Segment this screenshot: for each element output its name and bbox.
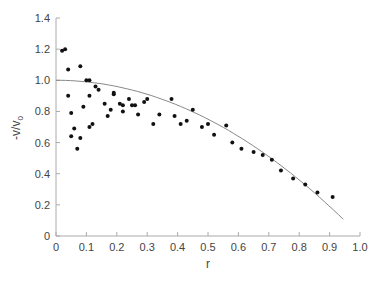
data-point: [239, 147, 243, 151]
data-point: [157, 113, 161, 117]
data-point: [303, 183, 307, 187]
x-tick-label: 0.2: [109, 241, 124, 253]
data-point: [106, 114, 110, 118]
x-tick-label: 0.7: [261, 241, 276, 253]
data-point: [109, 108, 113, 112]
axes: [56, 18, 360, 236]
x-tick-label: 0.6: [231, 241, 246, 253]
data-point: [121, 109, 125, 113]
data-point: [63, 47, 67, 51]
data-point: [291, 176, 295, 180]
data-point: [261, 153, 265, 157]
data-point: [206, 122, 210, 126]
data-point: [191, 108, 195, 112]
data-point: [151, 122, 155, 126]
data-point: [69, 134, 73, 138]
scatter-chart: 00.10.20.30.40.50.60.70.80.91.0 00.20.40…: [0, 0, 383, 281]
data-point: [331, 195, 335, 199]
data-point: [75, 147, 79, 151]
data-point: [145, 97, 149, 101]
y-tick-label: 0.4: [35, 168, 50, 180]
y-tick-label: 1.0: [35, 74, 50, 86]
x-tick-label: 0: [53, 241, 59, 253]
data-point: [133, 103, 137, 107]
data-point: [230, 141, 234, 145]
data-point: [87, 94, 91, 98]
data-point: [200, 125, 204, 129]
data-point: [142, 100, 146, 104]
data-points: [60, 47, 335, 199]
data-point: [270, 158, 274, 162]
fit-curve: [56, 80, 343, 219]
x-tick-label: 0.8: [292, 241, 307, 253]
data-point: [127, 97, 131, 101]
data-point: [112, 91, 116, 95]
data-point: [97, 88, 101, 92]
data-point: [136, 113, 140, 117]
data-point: [121, 103, 125, 107]
data-point: [66, 67, 70, 71]
x-tick-label: 1.0: [352, 241, 367, 253]
data-point: [78, 64, 82, 68]
data-point: [94, 85, 98, 89]
data-point: [103, 102, 107, 106]
y-tick-label: 0: [44, 230, 50, 242]
x-tick-label: 0.1: [79, 241, 94, 253]
x-tick-label: 0.5: [200, 241, 215, 253]
data-point: [173, 114, 177, 118]
data-point: [81, 105, 85, 109]
data-point: [185, 119, 189, 123]
x-tick-label: 0.4: [170, 241, 185, 253]
x-axis-title: r: [206, 257, 210, 271]
data-point: [179, 122, 183, 126]
x-tick-label: 0.9: [322, 241, 337, 253]
x-tick-label: 0.3: [140, 241, 155, 253]
data-point: [212, 133, 216, 137]
data-point: [90, 122, 94, 126]
data-point: [170, 97, 174, 101]
y-axis-title: -v/v0: [9, 116, 25, 140]
y-tick-label: 0.6: [35, 137, 50, 149]
y-tick-label: 0.2: [35, 199, 50, 211]
data-point: [315, 190, 319, 194]
data-point: [66, 94, 70, 98]
data-point: [252, 150, 256, 154]
y-tick-label: 1.2: [35, 43, 50, 55]
data-point: [78, 136, 82, 140]
data-point: [279, 169, 283, 173]
data-point: [72, 127, 76, 131]
y-tick-label: 0.8: [35, 105, 50, 117]
x-axis-ticks: 00.10.20.30.40.50.60.70.80.91.0: [53, 232, 368, 253]
data-point: [87, 78, 91, 82]
data-point: [69, 111, 73, 115]
y-tick-label: 1.4: [35, 12, 50, 24]
data-point: [224, 123, 228, 127]
data-point: [87, 125, 91, 129]
